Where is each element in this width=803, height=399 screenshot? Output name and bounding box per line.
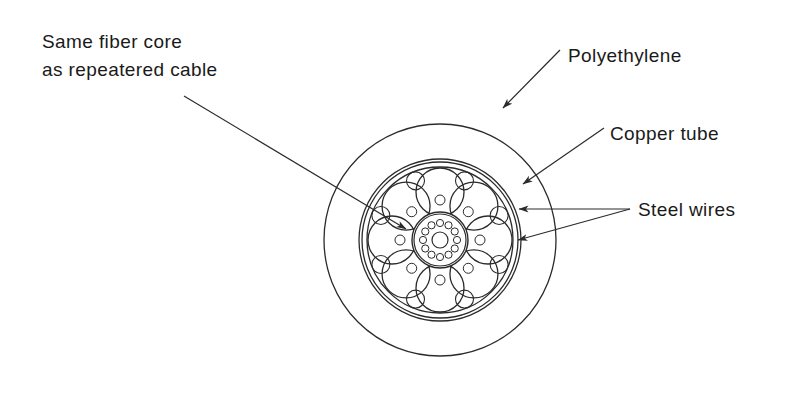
fiber-core-unit-group: [412, 212, 468, 268]
inner-filler-wire-4: [435, 275, 445, 285]
leader-steel-wire-strand: [518, 209, 630, 240]
filler-wire-3: [490, 255, 508, 273]
fiber-core-unit-outer-wall: [412, 212, 468, 268]
inner-filler-wire-1: [463, 207, 473, 217]
filler-wire-7: [372, 207, 390, 225]
cable-cross-section-diagram: Same fiber coreas repeatered cablePolyet…: [0, 0, 803, 399]
filler-wire-5: [407, 290, 425, 308]
steel-wire-5: [416, 264, 464, 312]
filler-wire-2: [490, 207, 508, 225]
leader-fiber-core: [184, 96, 406, 229]
labels-group: Same fiber coreas repeatered cablePolyet…: [42, 31, 735, 220]
filler-wire-4: [455, 290, 473, 308]
diagram-page: Same fiber coreas repeatered cablePolyet…: [0, 0, 803, 399]
label-steel-wires-line-1: Steel wires: [638, 199, 735, 220]
label-fiber-core: Same fiber coreas repeatered cable: [42, 31, 218, 80]
filler-wire-8: [407, 172, 425, 190]
inner-filler-wire-8: [435, 195, 445, 205]
inner-filler-wire-7: [407, 207, 417, 217]
inner-filler-wire-5: [407, 263, 417, 273]
steel-wire-3: [464, 216, 512, 264]
steel-wire-1: [416, 168, 464, 216]
label-polyethylene-line-1: Polyethylene: [568, 45, 682, 66]
label-steel-wires: Steel wires: [638, 199, 735, 220]
label-fiber-core-line-2: as repeatered cable: [42, 59, 218, 80]
filler-wire-1: [455, 172, 473, 190]
label-fiber-core-line-1: Same fiber core: [42, 31, 182, 52]
inner-filler-wire-2: [475, 235, 485, 245]
filler-wire-6: [372, 255, 390, 273]
leader-copper-tube: [523, 128, 604, 184]
inner-filler-wire-3: [463, 263, 473, 273]
label-polyethylene: Polyethylene: [568, 45, 682, 66]
leader-polyethylene: [503, 50, 560, 108]
label-copper-tube-line-1: Copper tube: [610, 123, 719, 144]
label-copper-tube: Copper tube: [610, 123, 719, 144]
steel-wire-7: [368, 216, 416, 264]
inner-filler-wire-6: [395, 235, 405, 245]
